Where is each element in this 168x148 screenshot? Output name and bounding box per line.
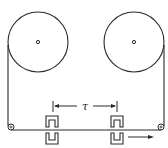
takeup-reel [104, 12, 164, 72]
interval-dimension: τ [53, 100, 117, 113]
arrowhead-left-icon [54, 104, 59, 108]
left-guide-roller [8, 124, 14, 130]
tape-path [8, 45, 164, 130]
arrowhead-right-icon [111, 104, 116, 108]
supply-reel [8, 12, 68, 72]
tape-transport-diagram: τ [0, 0, 168, 148]
tape-direction-arrow-icon [128, 135, 154, 139]
right-guide-roller [158, 124, 164, 130]
interval-label: τ [82, 100, 89, 113]
